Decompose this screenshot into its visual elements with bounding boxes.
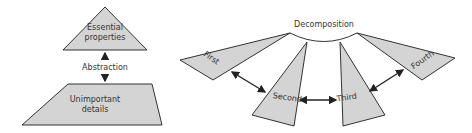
fourth-part-wedge — [357, 33, 455, 80]
first-part-wedge — [180, 33, 290, 80]
second-part-wedge — [252, 42, 307, 126]
abstraction-diagram: Essential properties Abstraction Unimpor… — [22, 7, 162, 125]
abstraction-label: Abstraction — [82, 63, 128, 72]
properties-label: properties — [85, 33, 126, 42]
decomposition-title: Decomposition — [294, 20, 354, 29]
essential-label: Essential — [87, 23, 123, 32]
diagram-canvas: Essential properties Abstraction Unimpor… — [0, 0, 472, 133]
unimportant-label: Unimportant — [70, 95, 120, 104]
first-second-arrow — [232, 72, 265, 92]
decomposition-arc — [290, 33, 357, 42]
details-label: details — [82, 105, 109, 114]
third-fourth-arrow — [370, 70, 403, 91]
third-part-wedge — [340, 42, 385, 126]
decomposition-diagram: Decomposition First Second Third Fourth — [180, 20, 455, 126]
